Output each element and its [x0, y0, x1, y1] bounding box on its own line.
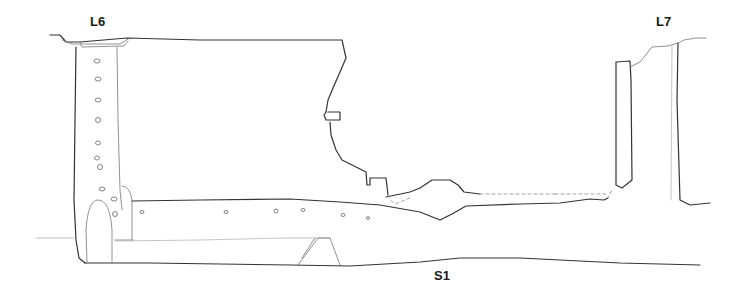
channel-holes	[140, 209, 370, 220]
trapezoid-feature	[298, 238, 340, 265]
l6-pillar-left	[74, 47, 85, 263]
section-drawing: L6 L7 S1	[0, 0, 750, 293]
channel-right-dashed	[555, 190, 612, 198]
l7-wall-inner	[671, 46, 672, 200]
channel-top-line	[132, 198, 608, 220]
l7-wall	[677, 43, 710, 205]
section-svg	[0, 0, 750, 293]
raised-floor	[386, 180, 480, 197]
pillar-stones	[94, 59, 118, 217]
central-wall-profile	[324, 112, 388, 195]
channel-mid-line	[115, 238, 330, 241]
l6-pillar-right	[117, 47, 122, 210]
l7-pillar	[616, 61, 632, 188]
label-s1: S1	[434, 268, 450, 283]
l6-niche	[86, 200, 112, 262]
channel-bottom-line	[85, 258, 700, 266]
l7-top-profile	[630, 38, 706, 67]
label-l6: L6	[90, 14, 105, 29]
label-l7: L7	[656, 14, 671, 29]
